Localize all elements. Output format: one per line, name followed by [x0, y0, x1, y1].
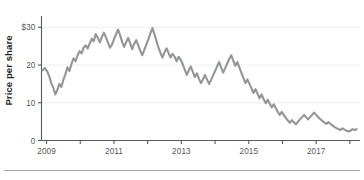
gridlines [42, 27, 361, 102]
y-tick-label: 0 [0, 136, 36, 145]
price-line [43, 28, 357, 131]
x-tick-label: 2017 [307, 147, 326, 156]
x-tick-label: 2011 [105, 147, 123, 156]
axis-ticks [38, 27, 350, 144]
stock-price-chart-figure: Price per share 01020$30 200920112013201… [0, 0, 364, 180]
y-tick-label: 20 [0, 61, 36, 70]
x-tick-label: 2015 [239, 147, 258, 156]
y-tick-label: 10 [0, 98, 36, 107]
x-tick-label: 2009 [37, 147, 56, 156]
x-tick-label: 2013 [172, 147, 191, 156]
y-tick-label: $30 [0, 23, 36, 32]
bottom-divider [4, 170, 360, 171]
